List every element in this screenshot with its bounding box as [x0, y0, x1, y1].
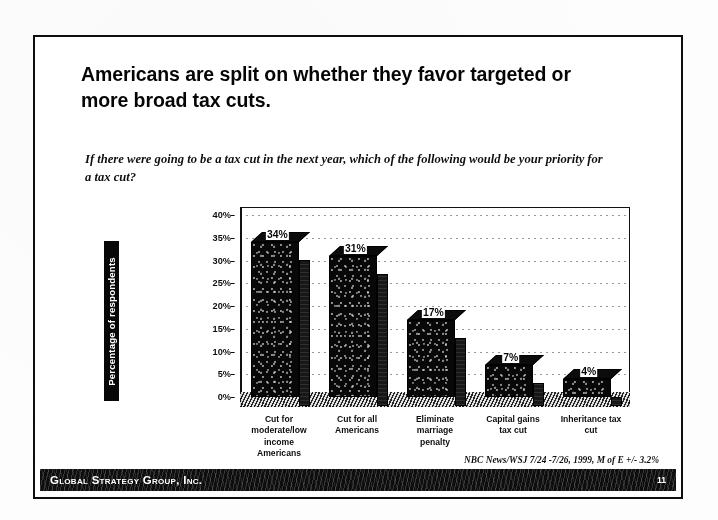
y-axis-tick-label: 15% — [213, 324, 231, 334]
x-axis-label-line: cut — [552, 425, 630, 436]
bar-side-face — [455, 338, 466, 406]
y-axis-title-band: Percentage of respondents — [104, 241, 119, 401]
x-axis-label-line: Cut for all — [318, 414, 396, 425]
bar-side-face — [533, 383, 544, 406]
footer-brand: Global Strategy Group, Inc. — [50, 474, 202, 486]
bar: 7% — [485, 365, 533, 397]
x-axis-label-line: Americans — [240, 448, 318, 459]
y-axis-tick-label: 25% — [213, 278, 231, 288]
y-axis-tick-label: 40% — [213, 210, 231, 220]
y-axis-tick-label: 0% — [218, 392, 231, 402]
bar-side-face — [299, 260, 310, 406]
x-axis-label-line: Capital gains — [474, 414, 552, 425]
y-axis-tick-label: 10% — [213, 347, 231, 357]
bar-value-label: 17% — [422, 307, 445, 318]
x-axis-label-line: marriage — [396, 425, 474, 436]
bar-front-face — [329, 256, 377, 397]
y-axis-tick-label: 35% — [213, 233, 231, 243]
x-axis-label-line: Americans — [318, 425, 396, 436]
bar-chart: 0%5%10%15%20%25%30%35%40% 34%31%17%7%4% … — [155, 202, 655, 452]
x-axis-label: Inheritance taxcut — [552, 414, 630, 437]
x-axis-label-line: Cut for — [240, 414, 318, 425]
footer-page-number: 11 — [657, 475, 666, 485]
y-axis-tick-label: 20% — [213, 301, 231, 311]
x-axis-label-line: Eliminate — [396, 414, 474, 425]
bar-value-label: 7% — [502, 352, 519, 363]
bar-side-face — [377, 274, 388, 406]
bar-front-face — [485, 365, 533, 397]
x-axis-label-line: penalty — [396, 437, 474, 448]
bar-front-face — [407, 320, 455, 397]
bar-front-face — [563, 379, 611, 397]
bar-value-label: 34% — [266, 229, 289, 240]
bar-value-label: 4% — [580, 366, 597, 377]
bar: 4% — [563, 379, 611, 397]
bar-value-label: 31% — [344, 243, 367, 254]
x-axis-label: Eliminatemarriagepenalty — [396, 414, 474, 448]
y-axis-tick-label: 30% — [213, 256, 231, 266]
x-axis-label-line: income — [240, 437, 318, 448]
x-axis-label: Cut for allAmericans — [318, 414, 396, 437]
x-axis-label-line: tax cut — [474, 425, 552, 436]
x-axis-label-line: Inheritance tax — [552, 414, 630, 425]
bar: 31% — [329, 256, 377, 397]
slide: Americans are split on whether they favo… — [33, 35, 683, 499]
y-axis-title: Percentage of respondents — [106, 257, 117, 386]
y-axis-tick-label: 5% — [218, 369, 231, 379]
bar: 17% — [407, 320, 455, 397]
x-axis-label: Cut formoderate/lowincomeAmericans — [240, 414, 318, 459]
source-note: NBC News/WSJ 7/24 -7/26, 1999, M of E +/… — [464, 455, 659, 465]
gridline — [240, 215, 630, 216]
x-axis-label: Capital gainstax cut — [474, 414, 552, 437]
bar: 34% — [251, 242, 299, 397]
x-axis-label-line: moderate/low — [240, 425, 318, 436]
bar-side-face — [611, 397, 622, 406]
footer-bar: Global Strategy Group, Inc. 11 — [40, 469, 676, 491]
bar-front-face — [251, 242, 299, 397]
page-title: Americans are split on whether they favo… — [81, 62, 621, 113]
survey-question: If there were going to be a tax cut in t… — [85, 150, 605, 187]
